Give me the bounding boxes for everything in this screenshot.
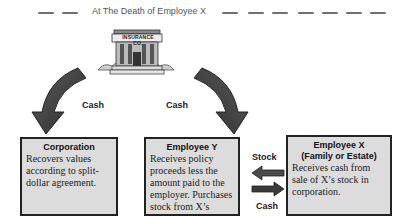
curved-arrow-left-icon: [30, 64, 90, 136]
stock-label: Stock: [252, 152, 277, 162]
curved-arrow-right-icon: [190, 64, 250, 136]
dash-decoration: [248, 12, 264, 14]
corporation-box: Corporation Recovers values according to…: [20, 137, 118, 216]
dash-decoration: [370, 12, 386, 14]
exchange-arrows-icon: [250, 165, 286, 197]
box-body: Receives policy proceeds less the amount…: [150, 153, 234, 216]
dash-decoration: [62, 12, 78, 14]
dash-decoration: [222, 12, 238, 14]
cash-label-bottom: Cash: [256, 201, 278, 211]
dash-decoration: [272, 12, 288, 14]
insurance-building-icon: INSURANCE CO.: [96, 28, 176, 76]
diagram-title: At The Death of Employee X: [92, 6, 206, 16]
box-body: Recovers values according to split-dolla…: [26, 153, 112, 189]
employee-x-box: Employee X (Family or Estate) Receives c…: [286, 135, 392, 216]
dash-decoration: [38, 12, 54, 14]
box-title: Employee X: [292, 140, 386, 151]
employee-y-box: Employee Y Receives policy proceeds less…: [144, 137, 240, 216]
box-title: Corporation: [26, 142, 112, 153]
insurance-sign: INSURANCE CO.: [118, 34, 158, 46]
dash-decoration: [346, 12, 362, 14]
cash-label-left: Cash: [82, 100, 104, 110]
box-title: Employee Y: [150, 142, 234, 153]
dash-decoration: [298, 12, 314, 14]
diagram-header: At The Death of Employee X: [0, 0, 406, 20]
cash-label-right: Cash: [166, 100, 188, 110]
box-subtitle: (Family or Estate): [292, 151, 386, 162]
box-body: Receives cash from sale of X’s stock in …: [292, 162, 386, 198]
dash-decoration: [322, 12, 338, 14]
